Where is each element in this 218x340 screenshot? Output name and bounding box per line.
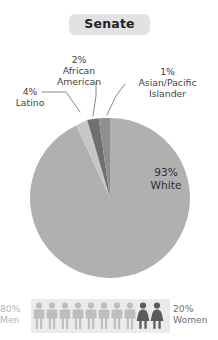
slice-name-asian-pacific-islander-line2: Islander	[120, 88, 215, 99]
person-icon-man	[99, 302, 110, 329]
person-icon-woman	[151, 302, 164, 328]
gender-pct-men: 80%	[0, 303, 30, 314]
slice-pct-white: 93%	[139, 166, 193, 179]
slice-pct-asian-pacific-islander: 1%	[120, 66, 215, 77]
person-icon-woman	[137, 302, 150, 328]
pictogram-women-group	[137, 302, 164, 328]
pictogram-men-group	[34, 302, 136, 329]
person-icon-man	[34, 302, 45, 329]
slice-name-asian-pacific-islander-line1: Asian/Pacific	[120, 77, 215, 88]
gender-label-men: 80% Men	[0, 303, 30, 326]
person-icon-man	[60, 302, 71, 329]
slice-label-white: 93% White	[139, 166, 193, 191]
slice-name-white: White	[139, 179, 193, 192]
person-icon-man	[47, 302, 58, 329]
slice-name-latino: Latino	[2, 97, 58, 108]
pie-chart	[0, 0, 218, 300]
slice-pct-latino: 4%	[2, 86, 58, 97]
gender-label-women: 20% Women	[173, 303, 218, 326]
gender-pct-women: 20%	[173, 303, 218, 314]
gender-name-men: Men	[0, 314, 30, 325]
person-icon-man	[86, 302, 97, 329]
slice-label-asian-pacific-islander: 1% Asian/Pacific Islander	[120, 66, 215, 100]
person-icon-man	[112, 302, 123, 329]
gender-name-women: Women	[173, 314, 218, 325]
slice-pct-african-american: 2%	[46, 54, 112, 65]
person-icon-man	[125, 302, 136, 329]
gender-pictogram	[31, 299, 170, 333]
person-icon-man	[73, 302, 84, 329]
slice-name-african-american-line1: African	[46, 65, 112, 76]
slice-label-latino: 4% Latino	[2, 86, 58, 108]
slice-label-african-american: 2% African American	[46, 54, 112, 88]
